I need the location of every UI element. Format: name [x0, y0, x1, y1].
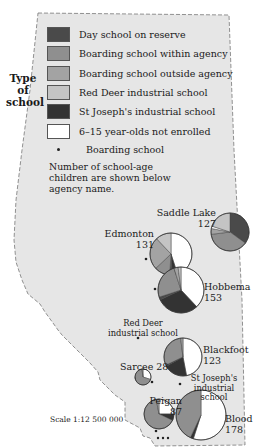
- swatch-boarding-outside: [47, 66, 70, 81]
- legend-item-red-deer: Red Deer industrial school: [47, 83, 233, 102]
- swatch-not-enrolled: [47, 124, 70, 139]
- label-red-deer-school: Red Deer industrial school: [108, 319, 178, 338]
- label-hobbema: Hobbema 153: [204, 281, 250, 303]
- label-st-joseph-school: St Joseph's industrial school: [183, 374, 245, 403]
- dot-icon: [57, 148, 60, 151]
- label-sarcee: Sarcee 28: [120, 361, 168, 372]
- legend-title: Type of school: [6, 72, 40, 108]
- swatch-boarding-within: [47, 46, 70, 61]
- label-blood: Blood 178: [225, 413, 253, 435]
- legend-item-st-joseph: St Joseph's industrial school: [47, 102, 233, 121]
- pie-hobbema: [158, 267, 204, 313]
- legend-item-not-enrolled: 6–15 year-olds not enrolled: [47, 121, 233, 140]
- legend: Day school on reserve Boarding school wi…: [47, 25, 233, 159]
- legend-note: Number of school-age children are shown …: [49, 161, 189, 194]
- pie-saddle-lake: [211, 213, 249, 251]
- label-saddle-lake: Saddle Lake 127: [150, 207, 216, 229]
- legend-item-boarding-dot: Boarding school: [47, 141, 233, 159]
- legend-item-boarding-within: Boarding school within agency: [47, 44, 233, 63]
- label-edmonton: Edmonton 131: [104, 228, 154, 250]
- map-scale: Scale 1:12 500 000: [50, 415, 123, 424]
- label-peigan: Peigan 87: [145, 395, 182, 417]
- swatch-st-joseph: [47, 104, 70, 119]
- legend-item-boarding-outside: Boarding school outside agency: [47, 64, 233, 83]
- pie-blackfoot: [164, 338, 202, 376]
- swatch-red-deer: [47, 85, 70, 100]
- swatch-day-school: [47, 27, 70, 42]
- legend-item-day-school: Day school on reserve: [47, 25, 233, 44]
- label-blackfoot: Blackfoot 123: [203, 344, 249, 366]
